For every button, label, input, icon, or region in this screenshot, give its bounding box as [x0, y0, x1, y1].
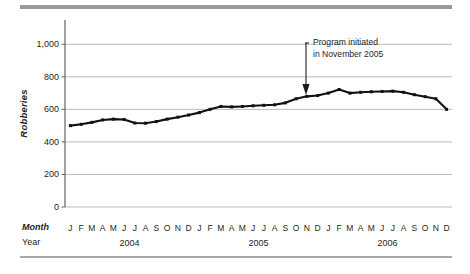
month-tick-label: A: [141, 222, 151, 234]
data-point-markers: [69, 88, 448, 127]
annotation-arrow: [302, 43, 309, 95]
month-tick-label: M: [87, 222, 97, 234]
chart-annotation: Program initiated in November 2005: [313, 37, 383, 60]
month-tick-label: O: [420, 222, 430, 234]
month-tick-label: M: [366, 222, 376, 234]
month-tick-label: J: [259, 222, 269, 234]
month-tick-label: A: [227, 222, 237, 234]
month-tick-label: A: [399, 222, 409, 234]
month-tick-label: J: [388, 222, 398, 234]
month-tick-label: J: [377, 222, 387, 234]
chart-figure: Robberies 02004006008001,000 Program ini…: [0, 0, 470, 274]
month-tick-label: J: [130, 222, 140, 234]
gridlines: [65, 44, 452, 207]
y-tick-label: 200: [25, 169, 59, 179]
year-axis-label: Year: [22, 237, 66, 247]
month-tick-label: D: [313, 222, 323, 234]
annotation-line-1: Program initiated: [313, 37, 383, 49]
month-axis-label: Month: [22, 222, 66, 232]
month-tick-label: A: [98, 222, 108, 234]
y-tick-label: 400: [25, 137, 59, 147]
month-tick-label: F: [76, 222, 86, 234]
month-tick-label: N: [302, 222, 312, 234]
month-tick-label: S: [409, 222, 419, 234]
year-tick-label: 2005: [239, 237, 279, 249]
y-tick-label: 600: [25, 104, 59, 114]
month-tick-label: A: [356, 222, 366, 234]
annotation-line-2: in November 2005: [313, 49, 383, 61]
year-tick-label: 2004: [110, 237, 150, 249]
month-tick-label: S: [151, 222, 161, 234]
month-tick-label: O: [162, 222, 172, 234]
y-tick-label: 800: [25, 72, 59, 82]
month-tick-label: M: [345, 222, 355, 234]
month-tick-label: N: [431, 222, 441, 234]
month-tick-label: J: [248, 222, 258, 234]
month-tick-label: J: [194, 222, 204, 234]
month-tick-label: J: [323, 222, 333, 234]
month-tick-label: D: [184, 222, 194, 234]
month-tick-label: M: [216, 222, 226, 234]
y-tick-label: 1,000: [25, 39, 59, 49]
year-tick-label: 2006: [368, 237, 408, 249]
month-tick-label: A: [270, 222, 280, 234]
month-tick-label: F: [334, 222, 344, 234]
month-tick-label: O: [291, 222, 301, 234]
month-tick-label: J: [65, 222, 75, 234]
y-tick-label: 0: [25, 202, 59, 212]
month-tick-label: S: [280, 222, 290, 234]
month-tick-label: F: [205, 222, 215, 234]
month-tick-label: D: [442, 222, 452, 234]
month-tick-label: N: [173, 222, 183, 234]
month-tick-label: M: [237, 222, 247, 234]
month-tick-label: M: [108, 222, 118, 234]
month-tick-label: J: [119, 222, 129, 234]
data-series-line: [70, 90, 446, 126]
